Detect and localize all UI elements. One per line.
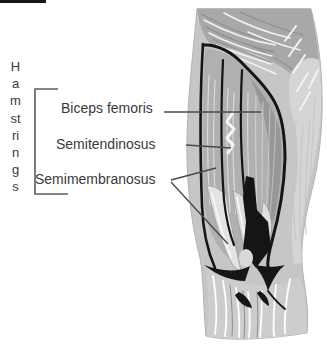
thigh-illustration xyxy=(187,9,322,339)
thigh-illustration-canvas xyxy=(0,0,327,348)
distal-tendon-blob xyxy=(239,249,253,267)
anatomy-diagram-page: Hamstrings Biceps femoris Semitendinosus… xyxy=(0,0,327,348)
hamstrings-bracket xyxy=(35,89,68,194)
